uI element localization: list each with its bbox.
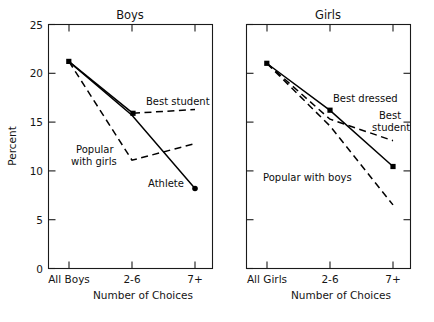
data-point-marker xyxy=(264,61,269,66)
plot-frame-boys xyxy=(49,25,213,269)
x-axis-tick-labels-boys: All Boys 2-6 7+ xyxy=(48,273,203,285)
data-point-marker xyxy=(192,186,198,192)
x-axis-title-girls: Number of Choices xyxy=(291,289,391,301)
series-line-best-student-dashed xyxy=(133,109,195,113)
data-point-marker xyxy=(390,164,395,169)
y-tick-5: 5 xyxy=(36,214,43,226)
x-axis-ticks-girls xyxy=(267,25,393,269)
y-tick-10: 10 xyxy=(30,165,43,177)
x-tick-7plus: 7+ xyxy=(385,273,400,285)
series-label-popular-with-girls-line2: with girls xyxy=(71,156,117,167)
y-tick-0: 0 xyxy=(36,263,43,275)
x-axis-title-boys: Number of Choices xyxy=(93,289,193,301)
data-point-marker xyxy=(66,59,71,64)
panel-boys: Boys 25 20 15 10 5 0 Percent xyxy=(6,8,213,301)
chart-svg: Boys 25 20 15 10 5 0 Percent xyxy=(0,0,434,322)
y-tick-25: 25 xyxy=(30,19,43,31)
series-line-best-student-solid xyxy=(69,62,133,114)
x-tick-2-6: 2-6 xyxy=(123,273,140,285)
series-label-popular-with-girls-line1: Popular xyxy=(76,144,114,155)
y-axis-ticks-boys xyxy=(49,25,56,269)
series-label-best-student-boys: Best student xyxy=(146,96,210,107)
y-axis-ticks-girls xyxy=(247,25,411,269)
series-label-best-student-girls-line2: student xyxy=(372,122,410,133)
x-axis-tick-labels-girls: All Girls 2-6 7+ xyxy=(247,273,401,285)
y-tick-15: 15 xyxy=(30,116,43,128)
y-tick-20: 20 xyxy=(30,67,43,79)
x-tick-7plus: 7+ xyxy=(187,273,202,285)
series-label-popular-with-boys: Popular with boys xyxy=(263,172,352,183)
series-line-athlete xyxy=(69,62,195,189)
series-label-athlete: Athlete xyxy=(148,178,184,189)
x-tick-2-6: 2-6 xyxy=(321,273,338,285)
data-point-marker xyxy=(130,111,135,116)
series-line-best-dressed xyxy=(267,64,393,167)
x-tick-all-girls: All Girls xyxy=(247,273,287,285)
x-tick-all-boys: All Boys xyxy=(48,273,90,285)
plot-frame-girls xyxy=(247,25,411,269)
y-axis-tick-labels: 25 20 15 10 5 0 xyxy=(30,19,43,275)
panel-title-girls: Girls xyxy=(315,8,341,22)
series-label-best-dressed: Best dressed xyxy=(333,93,398,104)
data-point-marker xyxy=(327,108,332,113)
y-axis-title: Percent xyxy=(6,126,18,166)
chart-figure: Boys 25 20 15 10 5 0 Percent xyxy=(0,0,434,322)
series-label-best-student-girls-line1: Best xyxy=(379,110,401,121)
panel-girls: Girls All Girls 2-6 7+ xyxy=(247,8,411,301)
panel-title-boys: Boys xyxy=(116,8,144,22)
